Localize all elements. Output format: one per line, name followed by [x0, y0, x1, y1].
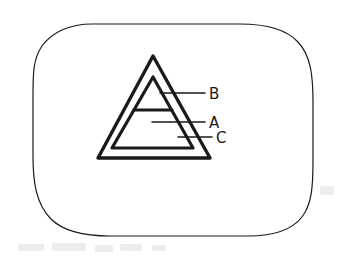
callout-b-label: B — [209, 85, 220, 103]
scan-artifact — [95, 245, 113, 252]
scan-artifact — [120, 244, 142, 251]
scan-artifact — [152, 245, 166, 251]
diagram-canvas: B A C — [0, 0, 345, 260]
scan-artifact — [52, 243, 86, 251]
callout-c-label: C — [216, 129, 227, 147]
scan-artifact — [320, 186, 334, 195]
scan-artifact — [18, 244, 44, 251]
paper-background — [0, 0, 345, 260]
